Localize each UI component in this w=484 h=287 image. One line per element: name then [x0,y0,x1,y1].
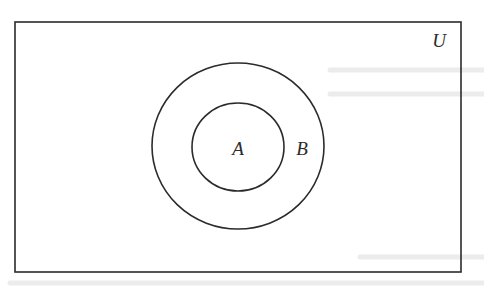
venn-diagram: U A B [0,0,484,287]
page-bleed-through [10,70,484,283]
universe-label: U [432,30,447,51]
set-b-label: B [296,138,308,159]
set-a-label: A [230,138,244,159]
